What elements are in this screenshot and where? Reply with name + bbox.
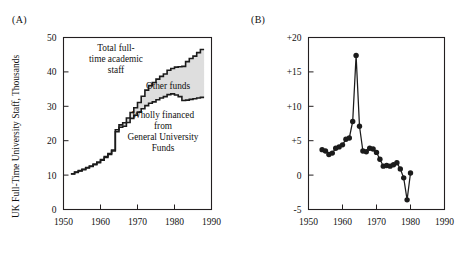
panel-b-axis-ticks — [309, 72, 411, 210]
data-point-marker — [330, 150, 335, 155]
y-tick-label: +15 — [287, 67, 302, 77]
x-tick-label: 1960 — [333, 217, 352, 227]
annotation-wholly-financed: from — [154, 121, 173, 131]
data-point-marker — [401, 175, 406, 180]
data-point-marker — [357, 124, 362, 129]
panel-a-y-axis-label: UK Full-Time University Staff, Thousands — [11, 55, 21, 218]
panel-b-tick-labels: 19501960197019801990-50+5+10+15+20 — [287, 33, 455, 227]
y-tick-label: 0 — [52, 205, 57, 215]
annotation-wholly-financed: General University — [128, 132, 199, 142]
y-tick-label: 20 — [47, 136, 57, 146]
y-tick-label: 0 — [297, 171, 302, 181]
annotation-total-staff: Total full- — [97, 43, 134, 53]
data-point-marker — [408, 170, 413, 175]
panel-a-label: (A) — [12, 14, 27, 25]
panel-b-frame — [309, 38, 445, 210]
panel-b: (B) Annual rates of change, % 1950196019… — [233, 0, 466, 259]
panel-b-plot: 19501960197019801990-50+5+10+15+20 — [233, 0, 466, 259]
data-point-marker — [374, 150, 379, 155]
data-point-marker — [347, 135, 352, 140]
x-tick-label: 1950 — [299, 217, 318, 227]
x-tick-label: 1960 — [91, 217, 110, 227]
data-point-marker — [350, 119, 355, 124]
annual-rate-line — [322, 55, 410, 199]
y-tick-label: +5 — [291, 136, 301, 146]
data-point-marker — [377, 157, 382, 162]
x-tick-label: 1970 — [367, 217, 386, 227]
annotation-total-staff: staff — [108, 65, 125, 75]
x-tick-label: 1970 — [128, 217, 147, 227]
y-tick-label: +10 — [287, 102, 302, 112]
x-tick-label: 1950 — [54, 217, 73, 227]
annotation-wholly-financed: Funds — [152, 143, 175, 153]
data-point-marker — [340, 142, 345, 147]
annotation-other-funds: Other funds — [146, 81, 191, 91]
panel-a-plot: 1950196019701980199001020304050 Total fu… — [0, 0, 233, 259]
x-tick-label: 1980 — [165, 217, 184, 227]
x-tick-label: 1980 — [401, 217, 420, 227]
annotation-total-staff: time academic — [89, 54, 143, 64]
y-tick-label: +20 — [287, 33, 302, 43]
data-point-marker — [353, 53, 358, 58]
x-tick-label: 1990 — [435, 217, 454, 227]
figure-container: (A) UK Full-Time University Staff, Thous… — [0, 0, 466, 259]
annual-rate-markers — [319, 53, 413, 203]
y-tick-label: 10 — [47, 171, 57, 181]
data-point-marker — [398, 166, 403, 171]
y-tick-label: 50 — [47, 33, 57, 43]
x-tick-label: 1990 — [202, 217, 221, 227]
annotation-wholly-financed: Wholly financed — [132, 110, 195, 120]
panel-b-label: (B) — [251, 14, 265, 25]
y-tick-label: 40 — [47, 67, 57, 77]
y-tick-label: -5 — [294, 205, 302, 215]
y-tick-label: 30 — [47, 102, 57, 112]
data-point-marker — [394, 160, 399, 165]
data-point-marker — [404, 197, 409, 202]
panel-a: (A) UK Full-Time University Staff, Thous… — [0, 0, 233, 259]
